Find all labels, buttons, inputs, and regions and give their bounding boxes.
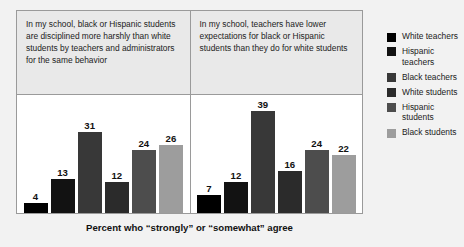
bar-slot: 39 bbox=[249, 95, 276, 213]
panel-plots: 41331122426 71239162422 bbox=[17, 95, 362, 213]
legend-item: Hispanic students bbox=[387, 102, 464, 123]
bar bbox=[197, 195, 221, 213]
bar-value-label: 4 bbox=[33, 191, 38, 202]
bar bbox=[224, 182, 248, 213]
legend-swatch-icon bbox=[387, 47, 396, 56]
bar-value-label: 12 bbox=[111, 170, 122, 181]
legend-item: White teachers bbox=[387, 31, 464, 42]
bar-slot: 16 bbox=[276, 95, 303, 213]
bar bbox=[159, 145, 183, 213]
bar-value-label: 24 bbox=[311, 138, 322, 149]
legend-label: Hispanic teachers bbox=[402, 46, 464, 67]
plot-area-1: 41331122426 bbox=[17, 95, 190, 213]
bar-slot: 24 bbox=[303, 95, 330, 213]
bar-group-2: 71239162422 bbox=[196, 95, 358, 213]
bar-value-label: 7 bbox=[206, 183, 211, 194]
legend-label: Black teachers bbox=[402, 72, 457, 83]
bar-slot: 13 bbox=[49, 95, 76, 213]
plot-area-2: 71239162422 bbox=[190, 95, 363, 213]
bar bbox=[78, 132, 102, 213]
legend-label: White teachers bbox=[402, 31, 458, 42]
bar-value-label: 39 bbox=[257, 99, 268, 110]
bar bbox=[132, 150, 156, 213]
bar-slot: 4 bbox=[22, 95, 49, 213]
bar bbox=[51, 179, 75, 213]
bar-slot: 26 bbox=[157, 95, 184, 213]
bar-slot: 22 bbox=[330, 95, 357, 213]
bar bbox=[305, 150, 329, 213]
bar-value-label: 22 bbox=[338, 143, 349, 154]
bar-value-label: 24 bbox=[139, 138, 150, 149]
bar bbox=[105, 182, 129, 213]
bar-value-label: 12 bbox=[231, 170, 242, 181]
panel-headers: In my school, black or Hispanic students… bbox=[17, 11, 362, 95]
bar-slot: 12 bbox=[103, 95, 130, 213]
legend-item: Black teachers bbox=[387, 72, 464, 83]
legend-item: White students bbox=[387, 87, 464, 98]
bar-slot: 24 bbox=[130, 95, 157, 213]
bar-slot: 7 bbox=[196, 95, 223, 213]
bar bbox=[278, 171, 302, 213]
legend-swatch-icon bbox=[387, 73, 396, 82]
legend-swatch-icon bbox=[387, 88, 396, 97]
panel-header-1: In my school, black or Hispanic students… bbox=[17, 11, 190, 94]
legend-item: Hispanic teachers bbox=[387, 46, 464, 67]
legend-label: Hispanic students bbox=[402, 102, 464, 123]
axis-caption: Percent who “strongly” or “somewhat” agr… bbox=[16, 222, 363, 233]
legend-label: White students bbox=[402, 87, 457, 98]
chart-legend: White teachersHispanic teachersBlack tea… bbox=[387, 31, 464, 142]
legend-swatch-icon bbox=[387, 129, 396, 138]
legend-item: Black students bbox=[387, 127, 464, 138]
bar bbox=[332, 155, 356, 213]
bar-value-label: 31 bbox=[84, 120, 95, 131]
panel-header-2: In my school, teachers have lower expect… bbox=[190, 11, 363, 94]
chart-card: In my school, black or Hispanic students… bbox=[16, 10, 363, 214]
legend-label: Black students bbox=[402, 127, 456, 138]
bar bbox=[24, 203, 48, 213]
bar-value-label: 26 bbox=[166, 133, 177, 144]
legend-swatch-icon bbox=[387, 33, 396, 42]
chart-figure: In my school, black or Hispanic students… bbox=[0, 0, 464, 247]
bar bbox=[251, 111, 275, 213]
bar-value-label: 13 bbox=[57, 167, 68, 178]
bar-slot: 12 bbox=[222, 95, 249, 213]
legend-swatch-icon bbox=[387, 103, 396, 112]
bar-group-1: 41331122426 bbox=[22, 95, 185, 213]
bar-value-label: 16 bbox=[284, 159, 295, 170]
bar-slot: 31 bbox=[76, 95, 103, 213]
